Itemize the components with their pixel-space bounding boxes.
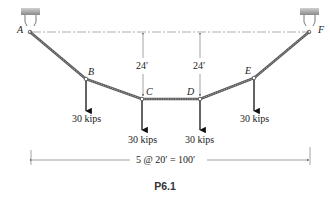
cable-diagram: [0, 0, 330, 198]
label-node-c: C: [146, 87, 153, 97]
span-label: 5 @ 20′ = 100′: [136, 155, 195, 165]
load-label-b: 30 kips: [72, 114, 101, 124]
figure-caption: P6.1: [0, 180, 330, 192]
load-label-e: 30 kips: [240, 114, 269, 124]
node-b: [84, 77, 88, 81]
label-node-d: D: [187, 87, 194, 97]
support-left: [21, 8, 40, 34]
cable: [30, 32, 309, 99]
load-label-d: 30 kips: [185, 135, 214, 145]
sag-label-c: 24′: [136, 61, 148, 71]
sag-label-d: 24′: [193, 61, 205, 71]
label-node-a: A: [17, 25, 23, 35]
label-node-e: E: [245, 66, 251, 76]
node-e: [252, 76, 256, 80]
node-c: [140, 97, 144, 101]
support-right: [300, 8, 319, 34]
label-node-f: F: [318, 25, 324, 35]
load-label-c: 30 kips: [128, 135, 157, 145]
label-node-b: B: [88, 67, 94, 77]
node-d: [198, 97, 202, 101]
